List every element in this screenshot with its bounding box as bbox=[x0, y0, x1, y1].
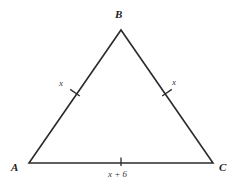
triangle-outline bbox=[29, 30, 213, 163]
vertex-label-a: A bbox=[11, 162, 18, 173]
side-length-label-ab: x bbox=[59, 79, 63, 88]
triangle-figure: B A C x x x + 6 bbox=[0, 0, 240, 193]
vertex-label-b: B bbox=[115, 9, 122, 20]
vertex-label-c: C bbox=[219, 162, 226, 173]
side-length-label-bc: x bbox=[172, 78, 176, 87]
triangle-drawing bbox=[0, 0, 240, 193]
side-length-label-ac: x + 6 bbox=[108, 170, 127, 179]
